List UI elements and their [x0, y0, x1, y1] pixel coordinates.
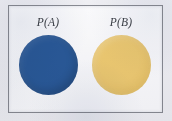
event-b-circle	[92, 35, 151, 95]
event-a-label: P(A)	[18, 17, 78, 28]
event-b-label: P(B)	[91, 17, 151, 28]
event-a-circle	[19, 35, 78, 95]
figure-root: P(A) P(B)	[0, 0, 172, 121]
